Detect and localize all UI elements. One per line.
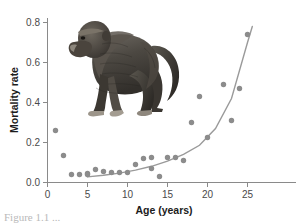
x-tick-label-15: 15 <box>162 189 174 200</box>
data-points-group <box>53 32 250 179</box>
data-point <box>149 166 154 171</box>
data-point <box>197 94 202 99</box>
y-axis-ticks <box>43 23 48 183</box>
y-tick-label-0.0: 0.0 <box>26 177 40 188</box>
x-tick-label-10: 10 <box>122 189 134 200</box>
fitted-curve <box>88 27 253 177</box>
figure-container: 0.8 0.6 0.4 0.2 0.0 0 5 10 15 20 25 Age … <box>0 0 300 224</box>
data-point <box>69 172 74 177</box>
y-tick-label-0.4: 0.4 <box>26 97 40 108</box>
y-tick-label-0.2: 0.2 <box>26 137 40 148</box>
data-point <box>221 82 226 87</box>
data-point <box>101 169 106 174</box>
data-point <box>109 170 114 175</box>
data-point <box>229 118 234 123</box>
data-point <box>173 155 178 160</box>
caption-text: Figure 1.1 ... <box>4 214 60 223</box>
x-axis-ticks <box>48 183 248 188</box>
data-point <box>157 174 162 179</box>
x-tick-label-25: 25 <box>242 189 254 200</box>
data-point <box>53 128 58 133</box>
data-point <box>181 158 186 163</box>
y-tick-label-0.8: 0.8 <box>26 17 40 28</box>
data-point <box>61 153 66 158</box>
data-point <box>189 120 194 125</box>
data-point <box>125 170 130 175</box>
y-axis-title: Mortality rate <box>8 67 20 133</box>
data-point <box>245 32 250 37</box>
data-point <box>133 162 138 167</box>
x-tick-label-20: 20 <box>202 189 214 200</box>
data-point <box>205 135 210 140</box>
data-point <box>93 167 98 172</box>
x-tick-label-0: 0 <box>45 189 51 200</box>
data-point <box>77 172 82 177</box>
x-tick-label-5: 5 <box>85 189 91 200</box>
data-point <box>165 155 170 160</box>
caption-strip: Figure 1.1 ... <box>0 214 300 224</box>
data-point <box>149 155 154 160</box>
data-point <box>85 172 90 177</box>
data-point <box>141 156 146 161</box>
data-point <box>237 86 242 91</box>
y-tick-label-0.6: 0.6 <box>26 57 40 68</box>
scatter-plot: 0.8 0.6 0.4 0.2 0.0 0 5 10 15 20 25 Age … <box>0 0 300 224</box>
data-point <box>117 170 122 175</box>
